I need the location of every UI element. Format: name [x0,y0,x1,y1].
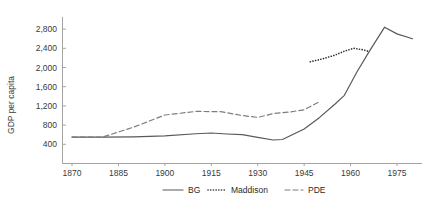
y-axis-tick-label: 1,200 [36,101,58,111]
chart-legend: BGMaddisonPDE [163,185,326,195]
y-axis-tick-label: 2,400 [36,43,58,53]
data-series-group [72,27,412,140]
y-axis-tick-label: 800 [43,120,57,130]
gdp-per-capita-line-chart: GDP per capita 4008001,2001,6002,0002,40… [0,0,428,207]
y-axis-title-text: GDP per capita [6,76,16,134]
x-axis-tick-label: 1900 [155,168,174,178]
legend-label-pde: PDE [308,185,326,195]
y-axis-tick-marks [63,29,67,144]
x-axis-tick-label: 1885 [109,168,128,178]
x-axis-tick-label: 1960 [341,168,360,178]
legend-label-maddison: Maddison [231,185,268,195]
x-axis-tick-label: 1945 [295,168,314,178]
y-axis-tick-label: 400 [43,139,57,149]
y-axis-tick-labels: 4008001,2001,6002,0002,4002,800 [36,24,58,149]
y-axis-title: GDP per capita [6,76,16,134]
legend-label-bg: BG [188,185,200,195]
x-axis-tick-label: 1915 [202,168,221,178]
series-line-pde [72,102,320,138]
y-axis-tick-label: 2,000 [36,63,58,73]
y-axis-tick-label: 2,800 [36,24,58,34]
series-line-maddison [310,48,369,61]
x-axis-tick-label: 1930 [248,168,267,178]
series-line-bg [72,27,412,140]
x-axis-tick-label: 1975 [388,168,407,178]
x-axis-tick-labels: 18701885190019151930194519601975 [63,168,407,178]
chart-container: GDP per capita 4008001,2001,6002,0002,40… [0,0,428,207]
x-axis-tick-label: 1870 [63,168,82,178]
y-axis-tick-label: 1,600 [36,82,58,92]
